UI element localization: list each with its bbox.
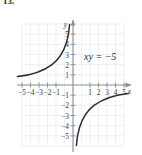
math-figure: 13. — [0, 0, 142, 155]
equation-label: xy = −5 — [83, 51, 116, 62]
y-tick-label: −2 — [61, 101, 69, 110]
x-tick-label: −2 — [44, 88, 52, 97]
x-tick-label: −1 — [52, 88, 60, 97]
x-tick-label: −5 — [18, 88, 26, 97]
x-tick-label: 5 — [122, 88, 126, 97]
x-tick-label: 3 — [105, 88, 109, 97]
coordinate-plane: −5 −4 −3 −2 −1 1 2 3 4 5 5 4 3 2 1 −1 −2… — [0, 6, 142, 155]
y-tick-label: 2 — [65, 61, 69, 70]
x-tick-label: 1 — [88, 88, 92, 97]
y-tick-label: −5 — [61, 132, 69, 141]
y-tick-label: 1 — [65, 71, 69, 80]
y-tick-label: −1 — [61, 91, 69, 100]
x-tick-label: 2 — [97, 88, 101, 97]
axes — [17, 20, 131, 152]
x-axis-label: x — [127, 87, 132, 96]
x-tick-label: −4 — [27, 88, 35, 97]
y-axis-arrow — [71, 20, 76, 26]
graph-svg: −5 −4 −3 −2 −1 1 2 3 4 5 5 4 3 2 1 −1 −2… — [0, 6, 142, 155]
hyperbola-left-branch — [18, 25, 70, 77]
x-tick-labels: −5 −4 −3 −2 −1 1 2 3 4 5 — [18, 88, 126, 97]
y-tick-label: −3 — [61, 112, 69, 121]
y-axis-label: y — [63, 20, 68, 29]
x-tick-label: −3 — [35, 88, 43, 97]
y-tick-label: 3 — [65, 51, 69, 60]
y-tick-label: −4 — [61, 122, 69, 131]
hyperbola-right-branch — [76, 93, 128, 145]
